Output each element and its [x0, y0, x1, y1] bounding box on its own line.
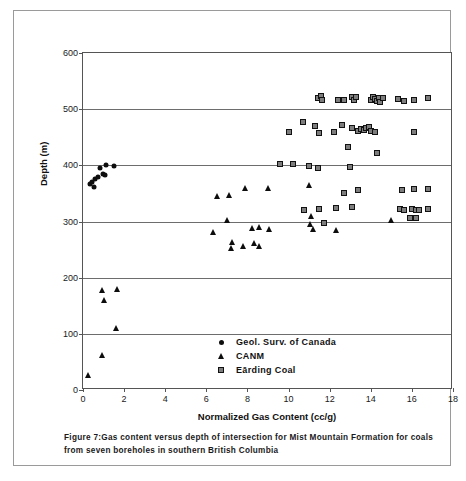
y-tick-label: 200 — [63, 273, 78, 283]
figure-frame: Depth (m) 0100200300400500600 0246810121… — [13, 10, 451, 466]
data-point-circle — [102, 172, 107, 177]
data-point-square — [399, 187, 405, 193]
data-point-triangle — [308, 213, 314, 219]
data-point-square — [341, 190, 347, 196]
data-point-square — [300, 119, 306, 125]
data-point-square — [401, 207, 407, 213]
data-point-square — [416, 207, 422, 213]
y-tick-mark — [79, 53, 83, 54]
y-tick-mark — [79, 222, 83, 223]
x-axis-title: Normalized Gas Content (cc/g) — [82, 411, 452, 422]
data-point-circle — [98, 165, 103, 170]
y-tick-mark — [79, 278, 83, 279]
data-point-square — [401, 98, 407, 104]
data-point-square — [315, 165, 321, 171]
legend-marker-circle-icon — [213, 340, 229, 345]
data-point-triangle — [249, 225, 255, 231]
legend-label: CANM — [236, 351, 264, 361]
y-tick-label: 400 — [63, 160, 78, 170]
y-tick-label: 0 — [73, 385, 78, 395]
legend-marker-square-icon — [213, 367, 229, 373]
x-tick-label: 12 — [325, 394, 335, 404]
data-point-square — [277, 161, 283, 167]
data-point-square — [395, 96, 401, 102]
x-tick-label: 2 — [122, 394, 127, 404]
data-point-square — [425, 186, 431, 192]
legend-item: Geol. Surv. of Canada — [213, 335, 336, 349]
data-point-square — [349, 125, 355, 131]
x-tick-mark — [83, 388, 84, 392]
y-tick-label: 600 — [63, 48, 78, 58]
data-point-triangle — [266, 226, 272, 232]
data-point-square — [319, 97, 325, 103]
legend-marker-triangle-icon — [213, 353, 229, 359]
data-point-triangle — [229, 239, 235, 245]
data-point-square — [355, 187, 361, 193]
x-tick-label: 18 — [448, 394, 458, 404]
data-point-triangle — [265, 185, 271, 191]
data-point-square — [331, 129, 337, 135]
data-point-triangle — [224, 217, 230, 223]
data-point-square — [316, 206, 322, 212]
data-point-square — [413, 215, 419, 221]
x-tick-label: 6 — [204, 394, 209, 404]
data-point-square — [411, 97, 417, 103]
data-point-triangle — [333, 227, 339, 233]
data-point-triangle — [242, 185, 248, 191]
data-point-triangle — [99, 287, 105, 293]
y-tick-mark — [79, 165, 83, 166]
data-point-triangle — [256, 243, 262, 249]
y-tick-mark — [79, 334, 83, 335]
legend-label: Eārding Coal — [236, 365, 296, 375]
y-tick-label: 500 — [63, 104, 78, 114]
data-point-triangle — [214, 193, 220, 199]
legend-label: Geol. Surv. of Canada — [236, 337, 336, 347]
data-point-triangle — [388, 217, 394, 223]
data-point-triangle — [101, 297, 107, 303]
data-point-triangle — [226, 192, 232, 198]
data-point-square — [341, 97, 347, 103]
data-point-triangle — [228, 245, 234, 251]
y-axis-title: Depth (m) — [38, 142, 49, 186]
data-point-triangle — [99, 352, 105, 358]
data-point-square — [316, 130, 322, 136]
data-point-square — [321, 220, 327, 226]
data-point-square — [372, 129, 378, 135]
data-point-square — [312, 123, 318, 129]
data-point-triangle — [256, 224, 262, 230]
y-tick-label: 100 — [63, 329, 78, 339]
data-point-triangle — [306, 182, 312, 188]
data-point-square — [407, 215, 413, 221]
x-tick-label: 4 — [163, 394, 168, 404]
y-tick-label: 300 — [63, 217, 78, 227]
x-tick-mark — [247, 388, 248, 392]
data-point-square — [335, 97, 341, 103]
data-point-square — [425, 206, 431, 212]
data-point-triangle — [113, 325, 119, 331]
x-tick-label: 14 — [366, 394, 376, 404]
data-point-square — [411, 129, 417, 135]
data-point-square — [349, 204, 355, 210]
x-tick-label: 8 — [245, 394, 250, 404]
data-point-square — [345, 144, 351, 150]
x-tick-mark — [330, 388, 331, 392]
gridline — [83, 278, 451, 279]
data-point-circle — [111, 163, 116, 168]
legend-item: CANM — [213, 349, 336, 363]
data-point-circle — [103, 162, 108, 167]
data-point-square — [347, 164, 353, 170]
gridline — [83, 165, 451, 166]
data-point-square — [339, 122, 345, 128]
x-tick-label: 16 — [407, 394, 417, 404]
data-point-square — [333, 205, 339, 211]
x-tick-label: 10 — [284, 394, 294, 404]
data-point-square — [380, 95, 386, 101]
x-tick-mark — [206, 388, 207, 392]
figure-caption: Figure 7:Gas content versus depth of int… — [64, 431, 434, 457]
gridline — [83, 222, 451, 223]
legend-item: Eārding Coal — [213, 363, 336, 377]
data-point-square — [374, 150, 380, 156]
x-tick-label: 0 — [80, 394, 85, 404]
data-point-square — [286, 129, 292, 135]
data-point-triangle — [240, 243, 246, 249]
